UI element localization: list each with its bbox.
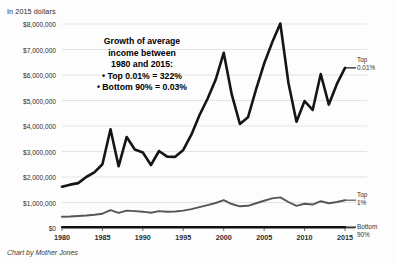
series-label-top-001: Top 0.01% (357, 56, 375, 71)
series-label-top-1-line1: Top (357, 191, 367, 199)
annotation-line-1: Growth of average (74, 36, 210, 48)
series-label-top-001-line2: 0.01% (357, 64, 375, 72)
annotation-line-5: • Bottom 90% = 0.03% (74, 82, 210, 94)
chart-container: In 2015 dollars $0$1,000,000$2,000,000$3… (0, 0, 397, 264)
series-label-bottom-90-line2: 90% (357, 231, 377, 239)
y-axis-tick-label: $5,000,000 (0, 97, 56, 104)
x-axis-tick-label: 1990 (135, 233, 151, 242)
annotation-line-4: • Top 0.01% = 322% (74, 71, 210, 83)
series-line-top-1 (62, 197, 345, 216)
y-axis-tick-label: $7,000,000 (0, 46, 56, 53)
x-axis-tick-label: 1980 (54, 233, 70, 242)
x-axis-tick-label: 2005 (256, 233, 272, 242)
y-axis-tick-label: $4,000,000 (0, 123, 56, 130)
series-label-top-1: Top 1% (357, 191, 367, 206)
annotation-line-3: 1980 and 2015: (74, 59, 210, 71)
annotation-line-2: income between (74, 48, 210, 60)
x-axis-tick-label: 2000 (216, 233, 232, 242)
x-axis-tick-label: 1985 (94, 233, 110, 242)
y-axis-tick-label: $3,000,000 (0, 148, 56, 155)
y-axis-tick-label: $1,000,000 (0, 199, 56, 206)
y-axis-tick-label: $6,000,000 (0, 72, 56, 79)
growth-annotation: Growth of average income between 1980 an… (74, 36, 210, 94)
series-label-top-001-line1: Top (357, 56, 375, 64)
series-label-bottom-90-line1: Bottom (357, 223, 377, 231)
y-axis-tick-label: $8,000,000 (0, 21, 56, 28)
x-axis-tick-label: 2015 (337, 233, 353, 242)
x-axis-tick-label: 1995 (175, 233, 191, 242)
series-label-bottom-90: Bottom 90% (357, 223, 377, 238)
chart-credit: Chart by Mother Jones (7, 249, 78, 256)
series-label-top-1-line2: 1% (357, 199, 367, 207)
y-axis-tick-label: $0 (0, 225, 56, 232)
x-axis-tick-label: 2010 (297, 233, 313, 242)
y-axis-tick-label: $2,000,000 (0, 174, 56, 181)
